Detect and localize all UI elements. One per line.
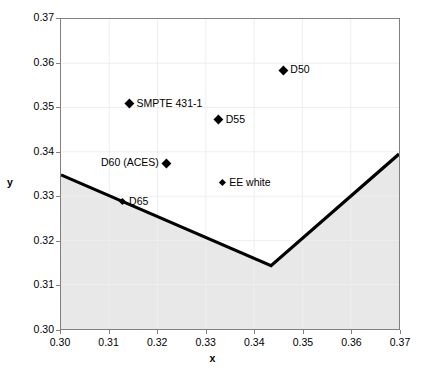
x-axis-tick-label: 0.33 <box>184 337 228 348</box>
data-point-label: D60 (ACES) <box>101 157 159 168</box>
y-axis-tick-label: 0.32 <box>14 235 54 246</box>
x-axis-tick-mark <box>206 330 207 334</box>
x-axis-tick-mark <box>109 330 110 334</box>
y-axis-tick-label: 0.33 <box>14 190 54 201</box>
x-axis-tick-mark <box>400 330 401 334</box>
y-axis-tick-label: 0.37 <box>14 12 54 23</box>
data-point-label: D55 <box>226 114 245 125</box>
y-axis-tick-label: 0.30 <box>14 324 54 335</box>
x-axis-tick-label: 0.30 <box>38 337 82 348</box>
x-axis-tick-label: 0.36 <box>329 337 373 348</box>
y-axis-tick-label: 0.34 <box>14 146 54 157</box>
data-point-label: EE white <box>229 177 270 188</box>
x-axis-tick-mark <box>157 330 158 334</box>
x-axis-tick-mark <box>303 330 304 334</box>
y-axis-tick-label: 0.35 <box>14 101 54 112</box>
x-axis-tick-mark <box>60 330 61 334</box>
x-axis-title: x <box>0 352 425 364</box>
chart-figure: y 0.300.310.320.330.340.350.360.37 D50SM… <box>0 0 425 372</box>
x-axis-tick-label: 0.32 <box>135 337 179 348</box>
y-axis-title: y <box>7 176 13 188</box>
plot-graphics <box>61 19 399 329</box>
data-point-label: D50 <box>290 64 309 75</box>
y-axis-tick-label: 0.36 <box>14 57 54 68</box>
x-axis-tick-label: 0.31 <box>87 337 131 348</box>
x-axis-tick-label: 0.37 <box>378 337 422 348</box>
x-axis-tick-label: 0.34 <box>232 337 276 348</box>
y-axis-tick-label: 0.31 <box>14 279 54 290</box>
data-point-label: D65 <box>129 196 148 207</box>
x-axis-tick-mark <box>351 330 352 334</box>
x-axis-tick-label: 0.35 <box>281 337 325 348</box>
plot-area: D50SMPTE 431-1D55D60 (ACES)EE whiteD65 <box>60 18 400 330</box>
data-point-label: SMPTE 431-1 <box>136 98 202 109</box>
x-axis-tick-mark <box>254 330 255 334</box>
